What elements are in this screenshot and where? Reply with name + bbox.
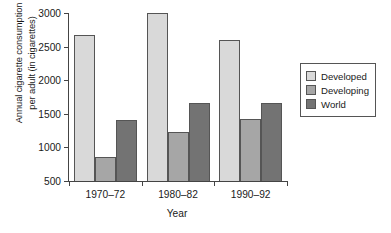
bar-chart: Annual cigarette consumption per adult (…	[0, 0, 391, 233]
bar-developed	[147, 13, 168, 181]
x-tick-mark	[69, 181, 70, 186]
bar-group	[69, 13, 142, 181]
legend: DevelopedDevelopingWorld	[300, 63, 376, 117]
bar-groups	[69, 13, 287, 181]
bar-world	[189, 103, 210, 181]
bar-developing	[168, 132, 189, 181]
x-axis-title: Year	[68, 208, 286, 219]
x-tick-mark	[287, 181, 288, 186]
bar-developed	[74, 35, 95, 181]
y-tick-label: 2000	[38, 75, 61, 86]
y-axis-title-line2: per adult (in cigarettes)	[26, 0, 39, 143]
y-tick-label: 1500	[38, 108, 61, 119]
y-axis-title-line1: Annual cigarette consumption	[13, 0, 26, 143]
plot-area: 50010001500200025003000 1970–721980–8219…	[68, 13, 287, 182]
legend-swatch-developed	[306, 71, 316, 81]
y-tick-label: 500	[44, 176, 61, 187]
bar-group	[214, 13, 287, 181]
x-tick-label: 1990–92	[231, 189, 271, 200]
bar-world	[261, 103, 282, 181]
legend-swatch-world	[306, 99, 316, 109]
legend-item: Developed	[306, 69, 369, 83]
y-tick-label: 1000	[38, 142, 61, 153]
bar-developing	[240, 119, 261, 181]
x-tick-mark	[142, 181, 143, 186]
x-tick-label: 1980–82	[158, 189, 198, 200]
bar-world	[116, 120, 137, 181]
y-axis-title: Annual cigarette consumption per adult (…	[13, 0, 43, 143]
y-tick-label: 3000	[38, 8, 61, 19]
y-tick-label: 2500	[38, 41, 61, 52]
legend-swatch-developing	[306, 85, 316, 95]
legend-label: Developing	[321, 85, 369, 96]
legend-label: World	[321, 99, 346, 110]
bar-group	[142, 13, 215, 181]
x-tick-label: 1970–72	[85, 189, 125, 200]
legend-item: World	[306, 97, 369, 111]
x-tick-mark	[214, 181, 215, 186]
bar-developing	[95, 157, 116, 181]
bar-developed	[219, 40, 240, 181]
legend-label: Developed	[321, 71, 367, 82]
legend-item: Developing	[306, 83, 369, 97]
